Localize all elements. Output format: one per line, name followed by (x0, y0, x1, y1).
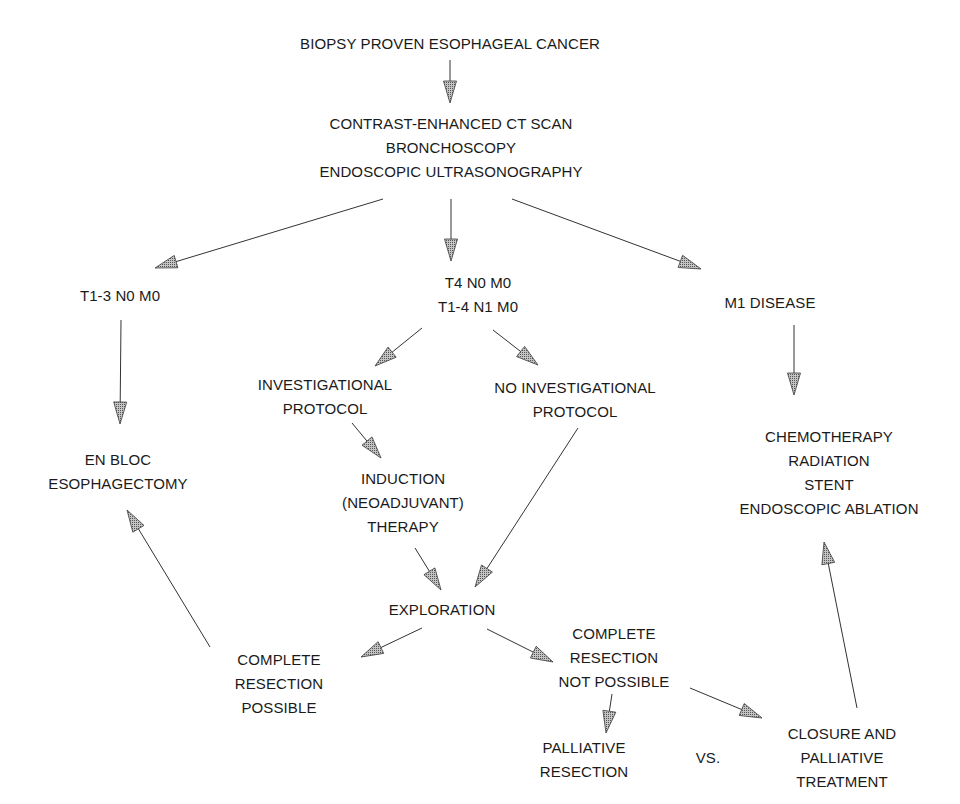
arrow-induction-to-exploration (415, 548, 441, 590)
node-t4-or-n1: T4 N0 M0 T1-4 N1 M0 (438, 271, 518, 319)
node-text: M1 DISEASE (724, 291, 815, 315)
arrow-exploration-to-crnotpossible (487, 629, 553, 662)
arrowhead-icon (822, 542, 835, 565)
arrowhead-icon (155, 255, 178, 268)
node-exploration: EXPLORATION (389, 598, 496, 622)
node-text: ENDOSCOPIC ULTRASONOGRAPHY (319, 160, 582, 184)
node-text: RESECTION (540, 760, 628, 784)
arrowhead-icon (114, 402, 127, 424)
node-complete-resection-not-possible: COMPLETE RESECTION NOT POSSIBLE (559, 622, 670, 694)
node-text: PALLIATIVE (788, 746, 897, 770)
node-text: BRONCHOSCOPY (319, 136, 582, 160)
node-text: INVESTIGATIONAL (258, 373, 393, 397)
arrow-t4-to-invprot (375, 328, 422, 366)
node-text: T4 N0 M0 (438, 271, 518, 295)
node-text: NO INVESTIGATIONAL (494, 376, 656, 400)
arrowhead-icon (678, 255, 701, 269)
node-text: VS. (696, 746, 720, 770)
arrowhead-icon (362, 437, 381, 458)
node-text: PALLIATIVE (540, 736, 628, 760)
node-text: EXPLORATION (389, 598, 496, 622)
arrow-staging-to-t4 (445, 199, 458, 261)
arrowhead-icon (445, 239, 458, 261)
node-text: RESECTION (559, 646, 670, 670)
arrowhead-icon (517, 346, 538, 365)
node-en-bloc-esophagectomy: EN BLOC ESOPHAGECTOMY (48, 448, 187, 496)
node-text: CHEMOTHERAPY (739, 425, 918, 449)
node-text: T1-4 N1 M0 (438, 295, 518, 319)
node-text: THERAPY (342, 515, 464, 539)
node-text: RADIATION (739, 449, 918, 473)
node-text: NOT POSSIBLE (559, 670, 670, 694)
node-text: ENDOSCOPIC ABLATION (739, 497, 918, 521)
arrow-start-to-staging (444, 60, 457, 103)
arrowhead-icon (530, 646, 553, 662)
arrowhead-icon (739, 704, 762, 719)
node-m1-disease: M1 DISEASE (724, 291, 815, 315)
arrowhead-icon (424, 568, 441, 590)
node-complete-resection-possible: COMPLETE RESECTION POSSIBLE (235, 648, 323, 720)
node-text: PROTOCOL (258, 397, 393, 421)
arrow-crpossible-to-enbloc (127, 510, 210, 647)
arrowhead-icon (603, 710, 616, 733)
arrowhead-icon (127, 510, 144, 532)
node-text: INDUCTION (342, 467, 464, 491)
arrow-crnotpossible-to-closure (690, 688, 762, 718)
arrow-closure-to-palliation (822, 542, 857, 708)
node-text: TREATMENT (788, 770, 897, 794)
node-text: ESOPHAGECTOMY (48, 472, 187, 496)
node-text: CLOSURE AND (788, 722, 897, 746)
node-text: COMPLETE (235, 648, 323, 672)
node-biopsy-proven-cancer: BIOPSY PROVEN ESOPHAGEAL CANCER (300, 32, 600, 56)
arrow-exploration-to-crpossible (361, 628, 422, 657)
arrowhead-icon (475, 565, 492, 587)
node-induction-therapy: INDUCTION (NEOADJUVANT) THERAPY (342, 467, 464, 539)
arrowhead-icon (788, 373, 801, 395)
node-text: COMPLETE (559, 622, 670, 646)
arrow-m1-to-palliation (788, 325, 801, 395)
arrow-t4-to-noinvprot (493, 330, 538, 365)
node-versus-label: VS. (696, 746, 720, 770)
node-text: EN BLOC (48, 448, 187, 472)
arrow-crnotpossible-to-palres (603, 694, 616, 733)
arrowhead-icon (375, 347, 396, 366)
arrow-noinvprot-to-exploration (475, 428, 578, 587)
node-investigational-protocol: INVESTIGATIONAL PROTOCOL (258, 373, 393, 421)
node-text: BIOPSY PROVEN ESOPHAGEAL CANCER (300, 32, 600, 56)
node-text: POSSIBLE (235, 696, 323, 720)
node-palliative-resection: PALLIATIVE RESECTION (540, 736, 628, 784)
node-text: (NEOADJUVANT) (342, 491, 464, 515)
node-text: CONTRAST-ENHANCED CT SCAN (319, 112, 582, 136)
arrow-t13-to-enbloc (114, 320, 127, 424)
node-text: PROTOCOL (494, 400, 656, 424)
arrow-staging-to-m1 (512, 199, 701, 269)
node-text: RESECTION (235, 672, 323, 696)
node-closure-and-palliative-treatment: CLOSURE AND PALLIATIVE TREATMENT (788, 722, 897, 794)
node-no-investigational-protocol: NO INVESTIGATIONAL PROTOCOL (494, 376, 656, 424)
arrow-invprot-to-induction (352, 423, 381, 458)
node-staging-workup: CONTRAST-ENHANCED CT SCAN BRONCHOSCOPY E… (319, 112, 582, 184)
arrowhead-icon (444, 81, 457, 103)
node-t1-3-n0-m0: T1-3 N0 M0 (80, 284, 160, 308)
arrowhead-icon (361, 642, 384, 657)
arrow-staging-to-t13 (155, 199, 383, 268)
node-text: STENT (739, 473, 918, 497)
node-text: T1-3 N0 M0 (80, 284, 160, 308)
node-palliative-options: CHEMOTHERAPY RADIATION STENT ENDOSCOPIC … (739, 425, 918, 521)
